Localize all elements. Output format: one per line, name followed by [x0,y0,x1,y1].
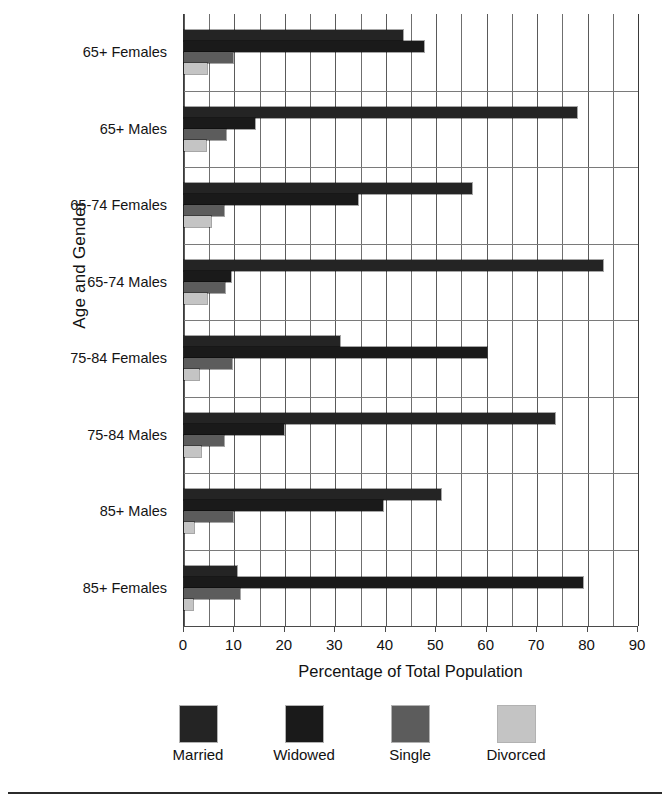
gridline-vertical [638,14,639,626]
bar-group [184,336,638,380]
bar-widowed [184,577,583,588]
x-axis-tick [536,626,537,632]
gridline-horizontal [184,550,638,551]
bar-group [184,489,638,533]
bar-single [184,435,224,446]
bar-single [184,511,233,522]
gridline-horizontal [184,397,638,398]
gridline-horizontal [184,91,638,92]
legend-swatch-single [392,706,429,742]
bar-divorced [184,369,199,380]
x-axis-tick [486,626,487,632]
bar-widowed [184,41,424,52]
y-axis-label: 75-84 Females [70,350,167,366]
bar-divorced [184,293,207,304]
legend-entry[interactable]: Married [150,706,246,763]
chart-legend: MarriedWidowedSingleDivorced [150,706,550,768]
x-axis-title: Percentage of Total Population [183,662,638,681]
bar-widowed [184,194,358,205]
bar-single [184,205,224,216]
bar-widowed [184,118,255,129]
x-axis-line [183,626,638,627]
bar-married [184,566,237,577]
bar-single [184,129,226,140]
bar-married [184,30,403,41]
legend-entry[interactable]: Single [362,706,458,763]
y-axis-label: 65-74 Males [87,274,167,290]
x-axis-tick [435,626,436,632]
bar-married [184,413,555,424]
bar-single [184,358,232,369]
bar-widowed [184,347,487,358]
legend-swatch-widowed [286,706,323,742]
bar-divorced [184,216,211,227]
bar-single [184,282,225,293]
legend-label: Divorced [468,746,564,763]
gridline-horizontal [184,167,638,168]
x-axis-tick [385,626,386,632]
legend-label: Widowed [256,746,352,763]
y-axis-label: 75-84 Males [87,427,167,443]
bar-divorced [184,63,207,74]
bar-married [184,260,603,271]
bar-group [184,107,638,151]
bar-chart-figure: Age and Gender 65+ Females65+ Males65-74… [0,0,670,804]
gridline-horizontal [184,473,638,474]
y-axis-category-labels: 65+ Females65+ Males65-74 Females65-74 M… [20,14,175,626]
legend-entry[interactable]: Divorced [468,706,564,763]
y-axis-label: 85+ Females [83,580,167,596]
bottom-divider [8,792,662,794]
x-axis-tick [334,626,335,632]
plot-area [183,14,638,626]
y-axis-label: 65-74 Females [70,197,167,213]
gridline-horizontal [184,320,638,321]
bar-group [184,183,638,227]
bar-widowed [184,424,284,435]
bar-widowed [184,500,383,511]
bar-widowed [184,271,231,282]
x-axis-tick-label: 90 [607,636,667,653]
bar-divorced [184,446,201,457]
bar-married [184,107,577,118]
legend-label: Single [362,746,458,763]
y-axis-label: 65+ Females [83,44,167,60]
bar-divorced [184,522,194,533]
bar-married [184,183,472,194]
x-axis-tick [233,626,234,632]
plot-inner [184,14,638,626]
y-axis-label: 85+ Males [100,503,167,519]
bar-divorced [184,140,206,151]
bar-married [184,489,441,500]
y-axis-label: 65+ Males [100,121,167,137]
x-axis-tick [284,626,285,632]
gridline-horizontal [184,244,638,245]
x-axis-tick [183,626,184,632]
legend-swatch-divorced [498,706,535,742]
bar-group [184,413,638,457]
x-axis-tick [637,626,638,632]
legend-entry[interactable]: Widowed [256,706,352,763]
bar-married [184,336,340,347]
bar-divorced [184,599,193,610]
bar-group [184,30,638,74]
bar-single [184,52,233,63]
x-axis-tick [587,626,588,632]
bar-group [184,260,638,304]
legend-label: Married [150,746,246,763]
legend-swatch-married [180,706,217,742]
bar-group [184,566,638,610]
bar-single [184,588,240,599]
